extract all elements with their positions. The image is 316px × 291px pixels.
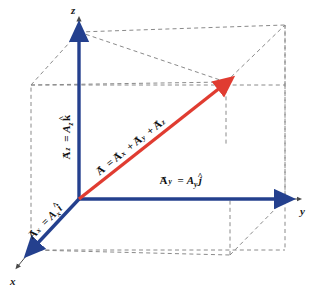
axis-label-z: z (70, 4, 76, 16)
box-edge-back-top (79, 25, 285, 32)
svg-text:A→y = Ayj^: A→y = Ayj^ (159, 171, 203, 189)
label-vector-Ay: A→y = Ayj^ (159, 171, 203, 189)
axis-label-x: x (9, 275, 16, 287)
svg-text:A→z = Azk^: A→z = Azk^ (57, 114, 75, 160)
box-edge-depth-bottom-right (230, 199, 285, 255)
label-vector-Az: A→z = Azk^ (57, 114, 75, 160)
vector-diagram-canvas: z y x A→z = Azk^ A→x = Axi^ A→y = Ayj^ A… (0, 0, 316, 291)
vector-diagram-figure: z y x A→z = Azk^ A→x = Axi^ A→y = Ayj^ A… (0, 0, 316, 291)
axis-label-y: y (298, 205, 305, 217)
svg-text:A→ = A→x + A→y + A→z: A→ = A→x + A→y + A→z (91, 112, 168, 177)
x-axis-extension (18, 250, 31, 266)
box-edge-bottom-front-diagonal (31, 250, 230, 255)
box-edge-tip-left (79, 32, 226, 82)
label-vector-A-resultant: A→ = A→x + A→y + A→z (91, 112, 168, 177)
box-edge-top-diagonal-to-tip (226, 25, 285, 82)
component-vectors (36, 38, 278, 245)
box-edge-depth-top-left (31, 32, 79, 85)
